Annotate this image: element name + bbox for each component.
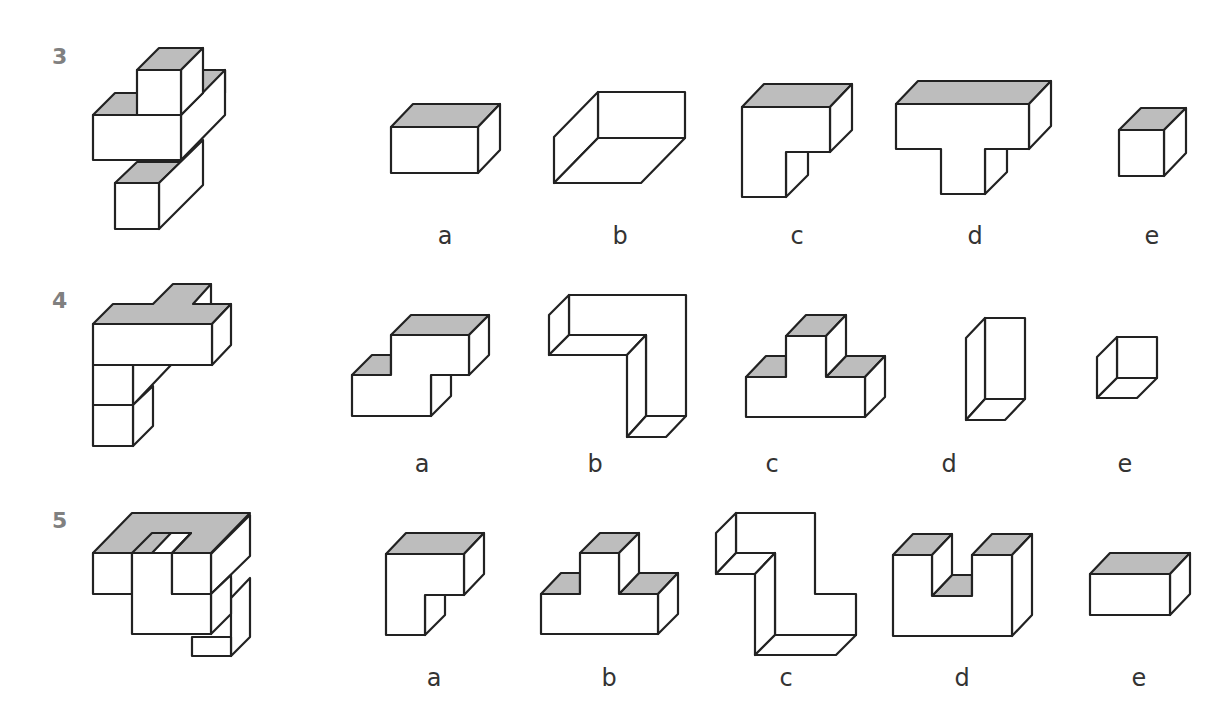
puzzle-4-option-b-shape[interactable] — [549, 295, 686, 437]
puzzle-5-main-shape — [93, 513, 250, 656]
option-label[interactable]: c — [765, 450, 778, 478]
option-label[interactable]: e — [1132, 664, 1147, 692]
puzzle-3-option-b-shape[interactable] — [554, 92, 685, 183]
option-label[interactable]: e — [1118, 450, 1133, 478]
option-label[interactable]: e — [1145, 222, 1160, 250]
option-label[interactable]: b — [601, 664, 616, 692]
puzzle-4-option-a-shape[interactable] — [352, 315, 489, 416]
puzzle-number: 3 — [52, 44, 67, 69]
option-label[interactable]: d — [967, 222, 982, 250]
option-label[interactable]: b — [587, 450, 602, 478]
option-label[interactable]: c — [790, 222, 803, 250]
puzzle-4-option-c-shape[interactable] — [746, 315, 885, 417]
puzzle-3-main-shape — [93, 48, 225, 229]
puzzle-3-option-a-shape[interactable] — [391, 104, 500, 173]
option-label[interactable]: d — [941, 450, 956, 478]
puzzle-4-main-shape — [93, 284, 231, 446]
puzzle-number: 5 — [52, 508, 67, 533]
puzzle-3-option-d-shape[interactable] — [896, 81, 1051, 194]
puzzle-4-option-e-shape[interactable] — [1097, 337, 1157, 398]
puzzle-4-option-d-shape[interactable] — [966, 318, 1025, 420]
option-label[interactable]: c — [779, 664, 792, 692]
option-label[interactable]: a — [427, 664, 442, 692]
puzzle-5-option-c-shape[interactable] — [716, 513, 856, 655]
option-label[interactable]: b — [612, 222, 627, 250]
puzzle-drawings — [0, 0, 1229, 725]
option-label[interactable]: a — [415, 450, 430, 478]
puzzle-5-option-d-shape[interactable] — [893, 534, 1032, 636]
option-label[interactable]: a — [438, 222, 453, 250]
puzzle-5-option-a-shape[interactable] — [386, 533, 484, 635]
puzzle-3-option-c-shape[interactable] — [742, 84, 852, 197]
puzzle-3-option-e-shape[interactable] — [1119, 108, 1186, 176]
puzzle-5-option-b-shape[interactable] — [541, 533, 678, 634]
puzzle-number: 4 — [52, 288, 67, 313]
option-label[interactable]: d — [954, 664, 969, 692]
puzzle-5-option-e-shape[interactable] — [1090, 553, 1190, 615]
